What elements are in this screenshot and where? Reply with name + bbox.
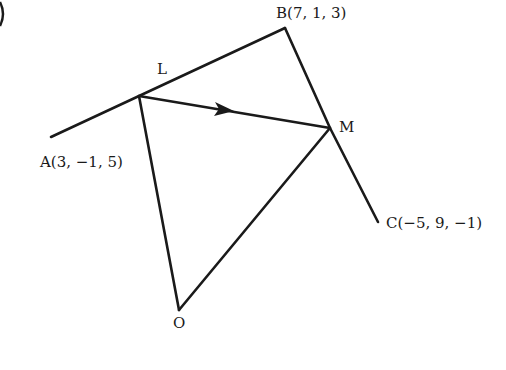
- label-a: A(3, −1, 5): [40, 155, 123, 170]
- label-c: C(−5, 9, −1): [386, 216, 482, 231]
- segment-m-o: [179, 128, 330, 310]
- label-o: O: [173, 316, 185, 331]
- segment-l-m: [139, 96, 330, 128]
- line-b-c: [285, 28, 378, 222]
- line-a-b: [51, 28, 285, 137]
- corner-paren-mark: [0, 2, 3, 26]
- label-m: M: [339, 120, 354, 135]
- label-b: B(7, 1, 3): [276, 6, 346, 21]
- segment-l-o: [139, 96, 179, 310]
- label-l: L: [157, 62, 167, 77]
- diagram-canvas: [0, 0, 506, 370]
